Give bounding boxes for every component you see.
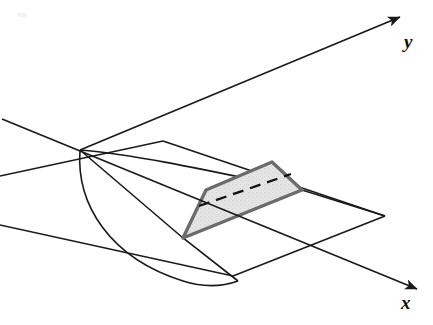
y-axis-label: y (404, 32, 412, 51)
scan-speck (17, 13, 27, 17)
axes (2, 17, 417, 289)
figure-canvas (0, 0, 433, 325)
cone-plane-intersection-figure: y x (0, 0, 433, 325)
plane-edge-upper-left (0, 141, 163, 176)
y-axis-line (80, 17, 400, 150)
x-axis-line (2, 119, 417, 289)
x-axis-label: x (401, 293, 411, 312)
cutting-plane (0, 141, 385, 276)
